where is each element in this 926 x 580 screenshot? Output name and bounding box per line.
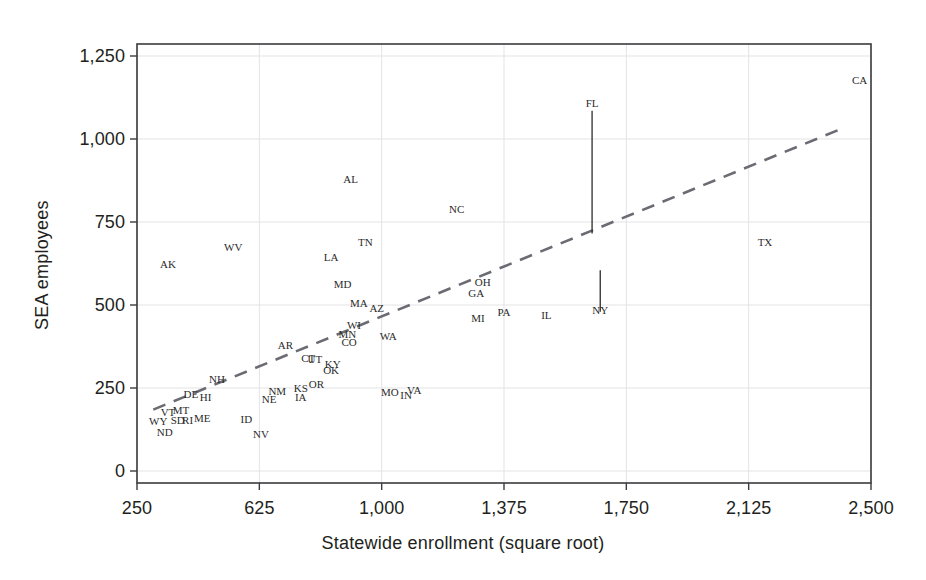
y-tick-label: 500 bbox=[41, 295, 125, 316]
x-axis-title: Statewide enrollment (square root) bbox=[0, 533, 926, 554]
data-point-label-nv: NV bbox=[253, 428, 269, 439]
data-point-label-ri: RI bbox=[182, 414, 193, 425]
data-point-label-oh: OH bbox=[475, 276, 491, 287]
data-point-label-de: DE bbox=[183, 388, 198, 399]
data-point-label-nd: ND bbox=[157, 426, 173, 437]
data-point-label-md: MD bbox=[334, 279, 352, 290]
x-tick-label: 1,375 bbox=[444, 498, 564, 519]
y-tick-label: 750 bbox=[41, 212, 125, 233]
data-point-label-wa: WA bbox=[380, 330, 397, 341]
data-point-label-tn: TN bbox=[358, 236, 373, 247]
data-point-label-ut: UT bbox=[307, 353, 322, 364]
data-point-label-al: AL bbox=[343, 173, 358, 184]
data-point-label-mo: MO bbox=[381, 386, 399, 397]
data-point-label-tx: TX bbox=[758, 236, 773, 247]
x-tick-label: 250 bbox=[77, 498, 197, 519]
data-point-label-ok: OK bbox=[323, 364, 339, 375]
scatter-chart-figure: 02505007501,0001,250 2506251,0001,3751,7… bbox=[0, 0, 926, 580]
data-point-label-ar: AR bbox=[278, 339, 293, 350]
data-point-label-fl: FL bbox=[586, 97, 599, 108]
y-axis-title: SEA employees bbox=[32, 200, 53, 330]
data-point-label-ny: NY bbox=[592, 304, 608, 315]
data-point-label-nc: NC bbox=[449, 203, 464, 214]
data-point-label-ia: IA bbox=[295, 392, 307, 403]
data-point-label-la: LA bbox=[324, 251, 339, 262]
data-point-label-ak: AK bbox=[160, 258, 176, 269]
y-tick-label: 0 bbox=[41, 461, 125, 482]
data-point-label-ca: CA bbox=[852, 74, 867, 85]
y-tick-label: 1,250 bbox=[41, 46, 125, 67]
y-tick-label: 1,000 bbox=[41, 129, 125, 150]
data-point-label-co: CO bbox=[341, 336, 356, 347]
data-point-label-hi: HI bbox=[200, 392, 212, 403]
x-tick-label: 2,125 bbox=[689, 498, 809, 519]
x-tick-label: 1,000 bbox=[322, 498, 442, 519]
plot-canvas bbox=[0, 0, 926, 580]
data-point-label-pa: PA bbox=[497, 307, 510, 318]
x-tick-label: 625 bbox=[199, 498, 319, 519]
x-tick-label: 2,500 bbox=[811, 498, 926, 519]
trendline-dashed bbox=[153, 127, 845, 409]
data-point-label-mi: MI bbox=[471, 312, 484, 323]
data-point-label-or: OR bbox=[309, 379, 324, 390]
data-point-label-wv: WV bbox=[224, 241, 242, 252]
data-point-label-id: ID bbox=[240, 413, 252, 424]
data-point-label-az: AZ bbox=[369, 302, 384, 313]
data-point-label-il: IL bbox=[541, 309, 551, 320]
y-tick-label: 250 bbox=[41, 378, 125, 399]
x-tick-label: 1,750 bbox=[566, 498, 686, 519]
data-point-label-ga: GA bbox=[468, 288, 484, 299]
data-point-label-ma: MA bbox=[350, 298, 368, 309]
data-point-label-me: ME bbox=[194, 412, 211, 423]
data-point-label-ne: NE bbox=[262, 393, 277, 404]
data-point-label-nh: NH bbox=[209, 373, 225, 384]
data-point-label-in: IN bbox=[400, 389, 412, 400]
